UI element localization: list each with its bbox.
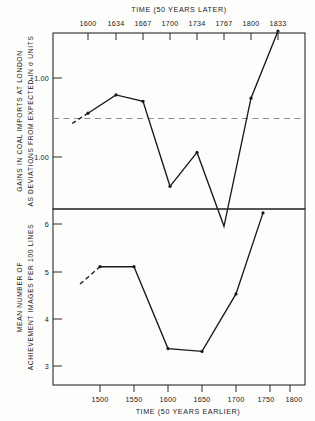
top-axis-tick-marks [88, 33, 278, 40]
top-tick-label: 1734 [189, 19, 206, 28]
top-y-tick-label: -1.00 [32, 153, 49, 162]
bottom-axis-title: TIME (50 YEARS EARLIER) [136, 407, 241, 416]
data-point [141, 100, 144, 103]
achievement-dashed-segment [80, 267, 100, 284]
figure-container: TIME (50 YEARS LATER) 1600 1634 1667 170… [0, 0, 315, 421]
data-point [114, 93, 117, 96]
data-point [200, 350, 203, 353]
top-ylabel-line1: GAINS IN COAL IMPORTS AT LONDON [16, 50, 23, 191]
top-tick-label: 1767 [216, 19, 233, 28]
bottom-y-tick-label: 3 [45, 362, 49, 371]
coal-imports-markers [86, 30, 279, 188]
bottom-tick-label: 1800 [286, 395, 303, 404]
top-axis-group: TIME (50 YEARS LATER) 1600 1634 1667 170… [80, 5, 287, 40]
bottom-ylabel-line2: ACHIEVEMENT IMAGES PER 100 LINES [27, 224, 34, 371]
bottom-y-tick-label: 6 [45, 220, 49, 229]
data-point [234, 292, 237, 295]
data-point [276, 30, 279, 33]
data-point [261, 211, 264, 214]
top-tick-label: 1800 [243, 19, 260, 28]
data-point [98, 265, 101, 268]
chart-figure: TIME (50 YEARS LATER) 1600 1634 1667 170… [0, 0, 315, 421]
bottom-tick-label: 1550 [126, 395, 143, 404]
top-tick-label: 1667 [135, 19, 152, 28]
coal-imports-line [88, 31, 278, 226]
data-point [168, 185, 171, 188]
data-point [166, 347, 169, 350]
achievement-imagery-line [100, 213, 263, 352]
top-axis-title: TIME (50 YEARS LATER) [131, 5, 226, 14]
top-ylabel-line2: AS DEVIATIONS FROM EXPECTED IN σ UNITS [27, 35, 34, 206]
bottom-tick-label: 1600 [160, 395, 177, 404]
bottom-tick-label: 1500 [92, 395, 109, 404]
bottom-panel-ylabel: MEAN NUMBER OF ACHIEVEMENT IMAGES PER 10… [16, 224, 34, 371]
top-tick-label: 1634 [108, 19, 125, 28]
top-tick-label: 1600 [80, 19, 97, 28]
data-point [86, 112, 89, 115]
bottom-axis-tick-labels: 1500 1550 1600 1650 1700 1750 1800 [92, 395, 303, 404]
top-tick-label: 1700 [162, 19, 179, 28]
bottom-tick-label: 1650 [194, 395, 211, 404]
bottom-tick-label: 1700 [228, 395, 245, 404]
bottom-panel-frame [53, 209, 305, 385]
bottom-ylabel-line1: MEAN NUMBER OF [16, 262, 23, 332]
top-tick-label: 1833 [270, 19, 287, 28]
top-panel-ylabel: GAINS IN COAL IMPORTS AT LONDON AS DEVIA… [16, 35, 34, 206]
bottom-tick-label: 1750 [258, 395, 275, 404]
bottom-y-tick-label: 5 [45, 268, 49, 277]
bottom-axis-tick-marks [100, 385, 290, 392]
data-point [132, 265, 135, 268]
data-point [249, 97, 252, 100]
bottom-y-tick-label: 4 [45, 315, 49, 324]
data-point [195, 151, 198, 154]
top-axis-tick-labels: 1600 1634 1667 1700 1734 1767 1800 1833 [80, 19, 287, 28]
